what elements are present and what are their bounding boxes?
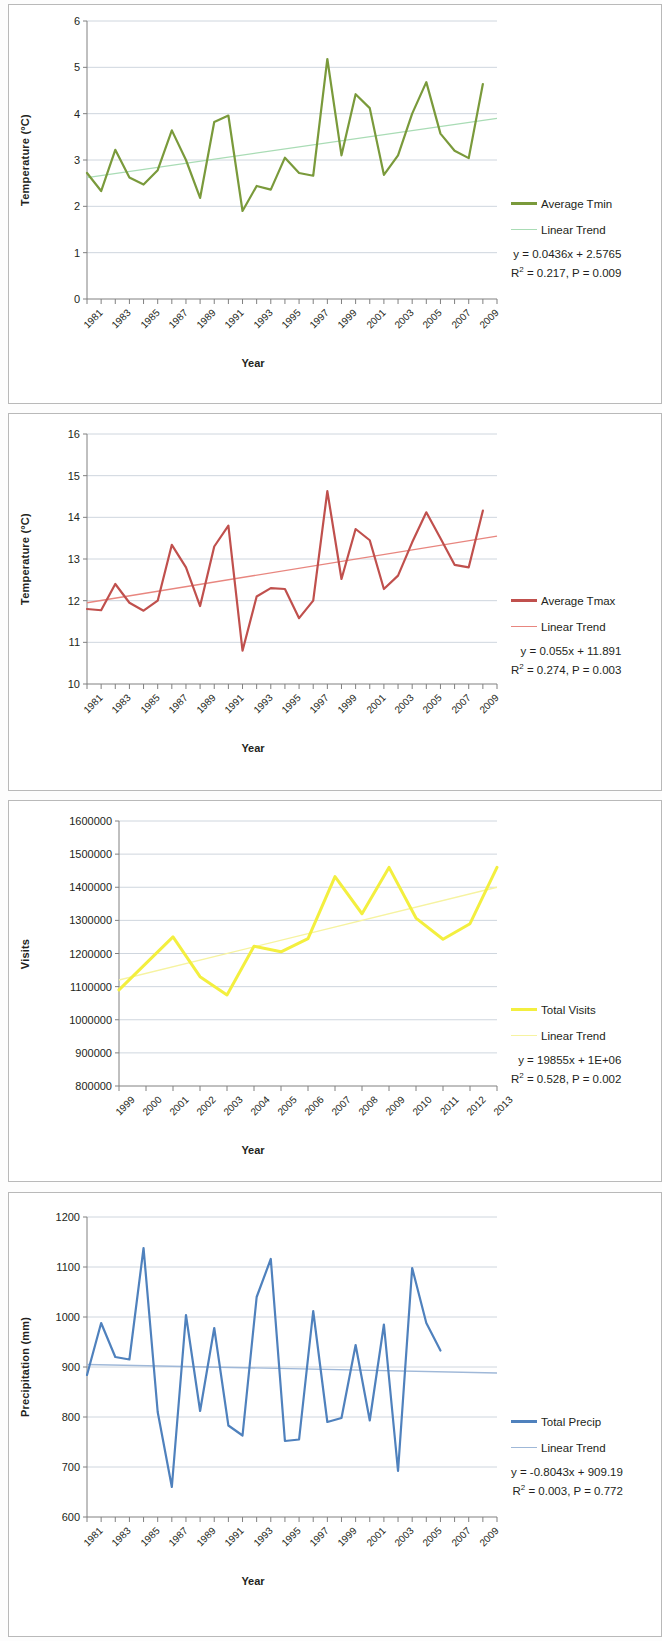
y-tick-label: 1100000 (20, 981, 112, 993)
y-tick-label: 10 (20, 678, 80, 690)
y-tick-label: 1400000 (20, 881, 112, 893)
y-tick-label: 700 (20, 1461, 80, 1473)
y-tick-label: 11 (20, 636, 80, 648)
legend-item-trend[interactable]: Linear Trend (511, 618, 621, 635)
y-tick-label: 1 (20, 247, 80, 259)
trend-statistics: R2 = 0.003, P = 0.772 (511, 1480, 623, 1499)
y-tick-label: 6 (20, 15, 80, 27)
trend-line (87, 536, 497, 603)
legend-swatch-series-icon (511, 1008, 537, 1011)
y-tick-label: 15 (20, 470, 80, 482)
legend-precip: Total PrecipLinear Trendy = -0.8043x + 9… (511, 1413, 623, 1499)
y-tick-label: 1200 (20, 1211, 80, 1223)
legend-label-trend: Linear Trend (541, 1442, 606, 1454)
r-squared-symbol: R (513, 1485, 521, 1497)
chart-panel-tmax: 10111213141516Temperature (°C)1981198319… (8, 413, 662, 791)
data-series-line (87, 1248, 440, 1487)
y-tick-label: 900000 (20, 1047, 112, 1059)
chart-panel-tmin: 0123456Temperature (°C)19811983198519871… (8, 4, 662, 404)
legend-item-trend[interactable]: Linear Trend (511, 221, 621, 238)
y-tick-label: 0 (20, 293, 80, 305)
legend-tmin: Average TminLinear Trendy = 0.0436x + 2.… (511, 195, 621, 281)
legend-item-series[interactable]: Total Precip (511, 1413, 623, 1430)
y-axis-title: Visits (19, 938, 31, 968)
y-tick-label: 5 (20, 61, 80, 73)
legend-label-trend: Linear Trend (541, 1030, 606, 1042)
legend-label-series: Total Precip (541, 1416, 601, 1428)
legend-swatch-series-icon (511, 202, 537, 205)
statistics-values: = 0.528, P = 0.002 (524, 1073, 622, 1085)
y-tick-label: 1300000 (20, 914, 112, 926)
y-tick-label: 1500000 (20, 848, 112, 860)
data-series-line (119, 867, 497, 995)
trend-equation: y = 0.055x + 11.891 (511, 644, 621, 659)
legend-swatch-trend-icon (511, 229, 537, 230)
legend-swatch-series-icon (511, 599, 537, 602)
trend-equation: y = -0.8043x + 909.19 (511, 1465, 623, 1480)
legend-label-series: Total Visits (541, 1004, 596, 1016)
y-tick-label: 600 (20, 1511, 80, 1523)
chart-panel-visits: 8000009000001000000110000012000001300000… (8, 800, 662, 1182)
y-tick-label: 1600000 (20, 815, 112, 827)
trend-statistics: R2 = 0.217, P = 0.009 (511, 262, 621, 281)
legend-label-series: Average Tmin (541, 198, 612, 210)
x-axis-title: Year (9, 1575, 497, 1587)
legend-swatch-trend-icon (511, 626, 537, 627)
trend-statistics: R2 = 0.274, P = 0.003 (511, 659, 621, 678)
legend-item-series[interactable]: Average Tmax (511, 592, 621, 609)
chart-panel-precip: 600700800900100011001200Precipitation (m… (8, 1192, 662, 1637)
x-axis-title: Year (9, 742, 497, 754)
data-series-line (87, 59, 483, 211)
legend-swatch-trend-icon (511, 1447, 537, 1448)
legend-swatch-series-icon (511, 1420, 537, 1423)
legend-visits: Total VisitsLinear Trendy = 19855x + 1E+… (511, 1001, 621, 1087)
legend-item-trend[interactable]: Linear Trend (511, 1027, 621, 1044)
y-axis-title: Precipitation (mm) (19, 1317, 31, 1417)
statistics-values: = 0.003, P = 0.772 (525, 1485, 623, 1497)
trend-line (87, 1365, 497, 1374)
legend-label-trend: Linear Trend (541, 621, 606, 633)
trend-statistics: R2 = 0.528, P = 0.002 (511, 1068, 621, 1087)
y-tick-label: 16 (20, 428, 80, 440)
trend-line (87, 118, 497, 177)
y-tick-label: 1000000 (20, 1014, 112, 1026)
y-tick-label: 800000 (20, 1080, 112, 1092)
y-tick-label: 1200000 (20, 948, 112, 960)
statistics-values: = 0.217, P = 0.009 (524, 267, 622, 279)
trend-equation: y = 19855x + 1E+06 (511, 1053, 621, 1068)
legend-item-trend[interactable]: Linear Trend (511, 1439, 623, 1456)
legend-item-series[interactable]: Average Tmin (511, 195, 621, 212)
legend-item-series[interactable]: Total Visits (511, 1001, 621, 1018)
legend-label-trend: Linear Trend (541, 224, 606, 236)
legend-label-series: Average Tmax (541, 595, 615, 607)
trend-equation: y = 0.0436x + 2.5765 (511, 247, 621, 262)
legend-swatch-trend-icon (511, 1035, 537, 1036)
y-axis-title: Temperature (°C) (19, 513, 31, 605)
legend-tmax: Average TmaxLinear Trendy = 0.055x + 11.… (511, 592, 621, 678)
x-axis-title: Year (9, 357, 497, 369)
y-tick-label: 1100 (20, 1261, 80, 1273)
charts-page: 0123456Temperature (°C)19811983198519871… (0, 0, 662, 1641)
x-axis-title: Year (9, 1144, 497, 1156)
y-axis-title: Temperature (°C) (19, 114, 31, 206)
statistics-values: = 0.274, P = 0.003 (524, 664, 622, 676)
trend-line (119, 887, 497, 980)
